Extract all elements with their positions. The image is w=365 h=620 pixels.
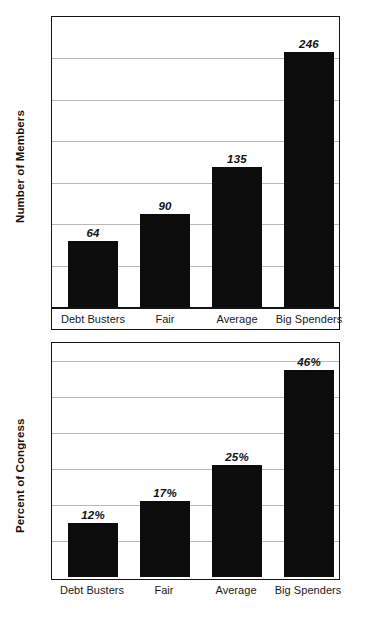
bar[interactable] bbox=[284, 52, 334, 307]
bar-slot: 135 bbox=[212, 17, 262, 307]
bar-slot: 12% bbox=[68, 343, 118, 577]
bar-slot: 17% bbox=[140, 343, 190, 577]
y-axis-title-members: Number of Members bbox=[14, 92, 30, 242]
x-axis-label: Big Spenders bbox=[276, 313, 343, 325]
bar-value-label: 90 bbox=[158, 200, 171, 212]
bar-slot: 46% bbox=[284, 343, 334, 577]
y-axis-title-percent: Percent of Congress bbox=[14, 396, 30, 556]
bar-slot: 25% bbox=[212, 343, 262, 577]
x-axis-labels-percent: Debt BustersFairAverageBig Spenders bbox=[51, 584, 340, 606]
x-axis-label: Average bbox=[215, 584, 256, 596]
bar-value-label: 17% bbox=[153, 487, 177, 499]
x-axis-label: Average bbox=[216, 313, 257, 325]
bar-slot: 246 bbox=[284, 17, 334, 307]
x-axis-label: Debt Busters bbox=[60, 584, 124, 596]
axis-line-members bbox=[52, 307, 339, 309]
bar[interactable] bbox=[212, 167, 262, 307]
bar-value-label: 246 bbox=[299, 38, 319, 50]
plot-area-members: 6490135246 bbox=[52, 17, 339, 307]
bar-value-label: 12% bbox=[81, 509, 105, 521]
bar[interactable] bbox=[68, 241, 118, 307]
plot-frame-percent: 12%17%25%46% bbox=[51, 342, 340, 580]
bar[interactable] bbox=[68, 523, 118, 577]
bar-slot: 64 bbox=[68, 17, 118, 307]
bar-series-members: 6490135246 bbox=[52, 17, 339, 307]
x-axis-label: Debt Busters bbox=[61, 313, 125, 325]
bar-series-percent: 12%17%25%46% bbox=[52, 343, 339, 577]
bar[interactable] bbox=[140, 501, 190, 578]
plot-area-percent: 12%17%25%46% bbox=[52, 343, 339, 577]
bar-value-label: 46% bbox=[297, 356, 321, 368]
x-axis-label: Fair bbox=[154, 584, 173, 596]
bar[interactable] bbox=[212, 465, 262, 578]
bar-value-label: 64 bbox=[86, 227, 99, 239]
bar-slot: 90 bbox=[140, 17, 190, 307]
x-axis-labels-members: Debt BustersFairAverageBig Spenders bbox=[52, 313, 339, 337]
bar[interactable] bbox=[140, 214, 190, 307]
plot-frame-members: 6490135246 Debt BustersFairAverageBig Sp… bbox=[51, 16, 340, 330]
chart-percent-of-congress: Percent of Congress 12%17%25%46% Debt Bu… bbox=[0, 336, 365, 620]
x-axis-label: Big Spenders bbox=[275, 584, 342, 596]
bar[interactable] bbox=[284, 370, 334, 577]
bar-value-label: 25% bbox=[225, 451, 249, 463]
chart-number-of-members: Number of Members 6490135246 Debt Buster… bbox=[0, 0, 365, 332]
bar-value-label: 135 bbox=[227, 153, 247, 165]
x-axis-label: Fair bbox=[155, 313, 174, 325]
figure-root: Number of Members 6490135246 Debt Buster… bbox=[0, 0, 365, 620]
